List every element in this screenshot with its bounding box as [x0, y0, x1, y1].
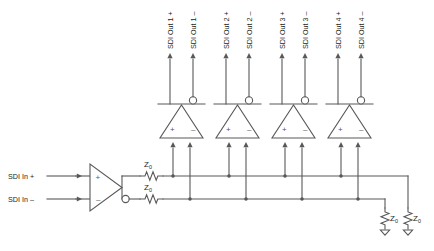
driver-3-group: + – SDI Out 3 + SDI Out 3 –	[270, 11, 317, 201]
driver-1[interactable]: + –	[160, 105, 203, 138]
out-1-minus-label: SDI Out 1 –	[189, 11, 198, 49]
bus-plus	[163, 176, 408, 208]
series-resistor-bottom[interactable]: Z0	[140, 183, 163, 203]
driver-1-minus-input-arrow	[187, 142, 192, 147]
driver-4-group: + – SDI Out 4 + SDI Out 4 –	[326, 11, 373, 201]
driver-1-plus-sign: +	[170, 125, 175, 134]
input-amp-plus-sign: +	[96, 173, 101, 182]
out-3-minus-arrow	[302, 53, 307, 58]
termination-resistor-right[interactable]: Z0	[403, 208, 420, 235]
driver-3-minus-input-arrow	[299, 142, 304, 147]
driver-3-plus-input-arrow	[282, 142, 287, 147]
driver-3-minus-junction	[300, 197, 304, 201]
ground-symbol-left	[380, 230, 389, 235]
input-label-plus: SDI In +	[8, 172, 34, 181]
driver-3-output-bubble	[301, 97, 308, 104]
driver-4-output-bubble	[357, 97, 364, 104]
out-2-plus-arrow	[223, 53, 228, 58]
driver-3-minus-sign: –	[303, 125, 308, 134]
input-buffer-outputs	[122, 176, 140, 203]
termination-resistor-left[interactable]: Z0	[380, 208, 397, 235]
driver-2[interactable]: + –	[216, 105, 259, 138]
input-net-plus	[47, 173, 90, 178]
driver-2-output-bubble	[245, 97, 252, 104]
out-2-plus-label: SDI Out 2 +	[222, 11, 231, 49]
circuit-canvas: + – Z0 Z0	[0, 0, 434, 251]
driver-2-minus-input-arrow	[243, 142, 248, 147]
input-amp-minus-sign: –	[96, 195, 101, 204]
driver-4[interactable]: + –	[328, 105, 371, 138]
input-net-minus	[47, 196, 90, 201]
out-4-minus-arrow	[358, 53, 363, 58]
out-4-minus-label: SDI Out 4 –	[357, 11, 366, 49]
driver-1-output-bubble	[189, 97, 196, 104]
driver-1-plus-input-arrow	[170, 142, 175, 147]
out-3-plus-arrow	[279, 53, 284, 58]
driver-1-plus-junction	[171, 174, 175, 178]
driver-2-minus-junction	[244, 197, 248, 201]
out-3-plus-label: SDI Out 3 +	[278, 11, 287, 49]
driver-3-plus-sign: +	[282, 125, 287, 134]
driver-1-minus-sign: –	[191, 125, 196, 134]
driver-1-minus-junction	[188, 197, 192, 201]
out-4-plus-arrow	[335, 53, 340, 58]
out-3-minus-label: SDI Out 3 –	[301, 11, 310, 49]
out-2-minus-arrow	[246, 53, 251, 58]
driver-2-group: + – SDI Out 2 + SDI Out 2 –	[214, 11, 261, 201]
series-resistor-top-label: Z0	[144, 160, 152, 170]
driver-2-plus-sign: +	[226, 125, 231, 134]
inverting-output-bubble	[122, 195, 129, 202]
driver-1-group: + – SDI Out 1 + SDI Out 1 –	[158, 11, 205, 201]
driver-4-plus-junction	[339, 174, 343, 178]
driver-4-minus-junction	[356, 197, 360, 201]
out-2-minus-label: SDI Out 2 –	[245, 11, 254, 49]
ground-symbol-right	[403, 230, 412, 235]
driver-4-minus-input-arrow	[355, 142, 360, 147]
driver-2-minus-sign: –	[247, 125, 252, 134]
termination-resistor-right-label: Z0	[413, 214, 421, 224]
out-1-plus-arrow	[167, 53, 172, 58]
input-buffer-amp[interactable]: + –	[90, 164, 122, 211]
driver-3[interactable]: + –	[272, 105, 315, 138]
termination-resistor-left-label: Z0	[390, 214, 398, 224]
series-resistor-top[interactable]: Z0	[140, 160, 163, 180]
driver-4-plus-input-arrow	[338, 142, 343, 147]
driver-4-plus-sign: +	[338, 125, 343, 134]
driver-4-minus-sign: –	[359, 125, 364, 134]
schematic-diagram: + – Z0 Z0	[0, 0, 434, 251]
out-1-minus-arrow	[190, 53, 195, 58]
series-resistor-bottom-label: Z0	[144, 183, 152, 193]
input-label-minus: SDI In –	[8, 195, 34, 204]
driver-2-plus-input-arrow	[226, 142, 231, 147]
driver-3-plus-junction	[283, 174, 287, 178]
out-4-plus-label: SDI Out 4 +	[334, 11, 343, 49]
bus-minus	[163, 199, 385, 208]
driver-2-plus-junction	[227, 174, 231, 178]
out-1-plus-label: SDI Out 1 +	[166, 11, 175, 49]
